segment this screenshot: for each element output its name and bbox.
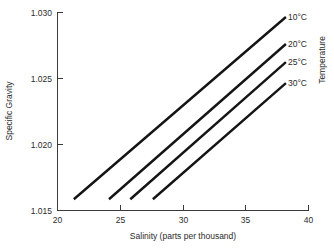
- x-tick-label-40: 40: [304, 215, 314, 225]
- data-series-group: [74, 17, 286, 199]
- y-tick-label-1030: 1.030: [31, 8, 53, 18]
- x-tick-label-25: 25: [116, 215, 126, 225]
- legend-axis-title: Temperature: [317, 36, 327, 84]
- x-tick-label-20: 20: [53, 215, 63, 225]
- data-line-20c: [109, 44, 286, 199]
- data-line-10c: [74, 17, 286, 199]
- x-tick-label-30: 30: [179, 215, 189, 225]
- series-label-30c: 30°C: [288, 78, 307, 88]
- x-axis-title: Salinity (parts per thousand): [130, 231, 236, 241]
- data-line-30c: [153, 83, 286, 199]
- y-tick-label-1020: 1.020: [31, 140, 53, 150]
- y-tick-label-1025: 1.025: [31, 74, 53, 84]
- series-label-20c: 20°C: [288, 39, 307, 49]
- series-label-25c: 25°C: [288, 57, 307, 67]
- chart-plot-area: 1.030 1.025 1.020 1.015 20 25 30 35 40 S…: [0, 0, 334, 249]
- y-tick-label-1015: 1.015: [31, 206, 53, 216]
- y-axis-title: Specific Gravity: [4, 81, 14, 141]
- x-tick-label-35: 35: [241, 215, 251, 225]
- chart-container: 1.030 1.025 1.020 1.015 20 25 30 35 40 S…: [0, 0, 334, 249]
- series-label-10c: 10°C: [288, 12, 307, 22]
